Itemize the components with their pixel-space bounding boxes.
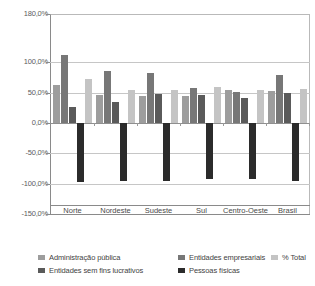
legend-label: Entidades empresariais: [189, 253, 265, 262]
bar: [206, 123, 213, 179]
chart-legend: Administração públicaEntidades empresari…: [38, 253, 313, 283]
x-axis-minor-tick: [309, 123, 310, 126]
bar-group: [180, 14, 223, 214]
bar: [300, 89, 307, 123]
bar: [69, 107, 76, 123]
bar: [171, 90, 178, 123]
bar: [128, 90, 135, 123]
x-axis-category-label: Norte: [51, 206, 94, 215]
bar-group: [51, 14, 94, 214]
legend-swatch-icon: [178, 255, 185, 260]
y-axis-tick-mark: [46, 184, 50, 185]
bar: [198, 95, 205, 123]
bar: [155, 94, 162, 123]
legend-item[interactable]: Entidades empresariais: [178, 253, 265, 262]
bar: [190, 88, 197, 123]
bar: [268, 91, 275, 123]
x-axis-category-label: Nordeste: [94, 206, 137, 215]
y-axis-tick-label: 0,0%: [0, 118, 48, 127]
bar: [257, 90, 264, 123]
y-axis-tick-mark: [46, 153, 50, 154]
y-axis-tick-label: -50,0%: [0, 148, 48, 157]
x-axis-category-label: Centro-Oeste: [223, 206, 266, 215]
legend-label: % Total: [282, 253, 306, 262]
legend-item[interactable]: Administração pública: [38, 253, 120, 262]
bar: [120, 123, 127, 181]
bar: [61, 55, 68, 123]
bar: [77, 123, 84, 182]
y-axis-tick-label: -150,0%: [0, 209, 48, 218]
bar-group: [223, 14, 266, 214]
y-axis-tick-label: 180,0%: [0, 9, 48, 18]
bar-chart: 180,0%100,0%50,0%0,0%-50,0%-100,0%-150,0…: [0, 0, 315, 286]
y-axis-tick-mark: [46, 93, 50, 94]
legend-label: Pessoas físicas: [189, 266, 240, 275]
legend-swatch-icon: [178, 268, 185, 273]
bar-group: [137, 14, 180, 214]
bar-group: [94, 14, 137, 214]
bar: [214, 87, 221, 123]
bar: [233, 92, 240, 123]
legend-swatch-icon: [38, 255, 45, 260]
bar: [292, 123, 299, 181]
y-axis-tick-mark: [46, 62, 50, 63]
bar: [147, 73, 154, 123]
legend-item[interactable]: Entidades sem fins lucrativos: [38, 266, 143, 275]
bar: [276, 75, 283, 123]
bar: [284, 93, 291, 123]
bar: [249, 123, 256, 179]
bar-groups: [51, 14, 309, 214]
legend-label: Entidades sem fins lucrativos: [49, 266, 143, 275]
legend-item[interactable]: Pessoas físicas: [178, 266, 240, 275]
bar: [112, 102, 119, 123]
y-axis-tick-label: 50,0%: [0, 88, 48, 97]
bar: [241, 98, 248, 123]
bar: [96, 95, 103, 123]
x-axis-category-label: Brasil: [266, 206, 309, 215]
x-axis-category-labels: NorteNordesteSudesteSulCentro-OesteBrasi…: [51, 206, 309, 220]
legend-swatch-icon: [38, 268, 45, 273]
bar: [104, 71, 111, 123]
y-axis-tick-mark: [46, 214, 50, 215]
bar: [182, 96, 189, 123]
y-axis-tick-mark: [46, 123, 50, 124]
y-axis-tick-label: -100,0%: [0, 179, 48, 188]
x-axis-category-label: Sudeste: [137, 206, 180, 215]
bar: [53, 85, 60, 123]
legend-swatch-icon: [271, 255, 278, 260]
bar: [85, 79, 92, 123]
bar-group: [266, 14, 309, 214]
y-axis-tick-label: 100,0%: [0, 57, 48, 66]
legend-item[interactable]: % Total: [271, 253, 306, 262]
y-axis-tick-mark: [46, 14, 50, 15]
x-axis-category-label: Sul: [180, 206, 223, 215]
bar: [163, 123, 170, 181]
legend-label: Administração pública: [49, 253, 120, 262]
bar: [225, 90, 232, 123]
bar: [139, 96, 146, 123]
